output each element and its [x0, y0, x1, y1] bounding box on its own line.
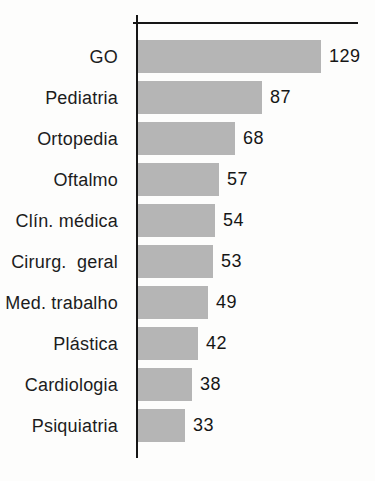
bar — [138, 81, 262, 114]
value-label: 129 — [329, 46, 361, 67]
category-label: Cirurg. geral — [0, 253, 138, 271]
chart-row: Plástica 42 — [0, 327, 375, 360]
bar — [138, 122, 235, 155]
category-label: Psiquiatria — [0, 417, 138, 435]
value-label: 57 — [227, 169, 248, 190]
bar — [138, 163, 219, 196]
bar-chart: GO 129 Pediatria 87 Ortopedia 68 Oftalmo… — [0, 0, 375, 481]
chart-row: Med. trabalho 49 — [0, 286, 375, 319]
category-label: Oftalmo — [0, 171, 138, 189]
value-label: 49 — [216, 292, 237, 313]
value-label: 68 — [243, 128, 264, 149]
bar — [138, 245, 213, 278]
chart-row: Pediatria 87 — [0, 81, 375, 114]
x-axis-line — [133, 22, 358, 24]
chart-row: Clín. médica 54 — [0, 204, 375, 237]
bar — [138, 368, 192, 401]
bar — [138, 204, 215, 237]
chart-rows: GO 129 Pediatria 87 Ortopedia 68 Oftalmo… — [0, 40, 375, 450]
value-label: 38 — [200, 374, 221, 395]
value-label: 42 — [206, 333, 227, 354]
category-label: Pediatria — [0, 89, 138, 107]
category-label: GO — [0, 48, 138, 66]
value-label: 33 — [193, 415, 214, 436]
category-label: Ortopedia — [0, 130, 138, 148]
value-label: 53 — [221, 251, 242, 272]
chart-row: GO 129 — [0, 40, 375, 73]
category-label: Clín. médica — [0, 212, 138, 230]
value-label: 54 — [223, 210, 244, 231]
chart-row: Oftalmo 57 — [0, 163, 375, 196]
bar — [138, 286, 208, 319]
bar — [138, 327, 198, 360]
category-label: Med. trabalho — [0, 294, 138, 312]
value-label: 87 — [270, 87, 291, 108]
bar — [138, 409, 185, 442]
category-label: Cardiologia — [0, 376, 138, 394]
chart-row: Cardiologia 38 — [0, 368, 375, 401]
category-label: Plástica — [0, 335, 138, 353]
chart-row: Cirurg. geral 53 — [0, 245, 375, 278]
chart-row: Ortopedia 68 — [0, 122, 375, 155]
bar — [138, 40, 321, 73]
chart-row: Psiquiatria 33 — [0, 409, 375, 442]
